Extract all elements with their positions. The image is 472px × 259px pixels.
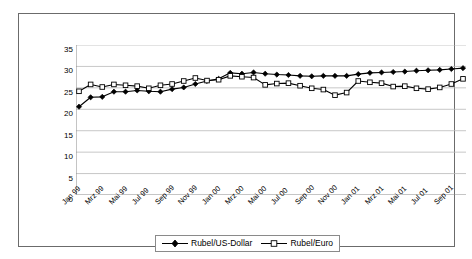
legend-item-rubel-euro: Rubel/Euro bbox=[261, 238, 333, 248]
chart-frame: 05101520253035 Jan 99Mrz 99Mai 99Jul 99S… bbox=[18, 13, 455, 247]
open-square-icon bbox=[261, 239, 287, 248]
chart-screenshot: 05101520253035 Jan 99Mrz 99Mai 99Jul 99S… bbox=[0, 0, 472, 259]
legend-label-rubel-euro: Rubel/Euro bbox=[290, 238, 333, 248]
axis-lines bbox=[76, 45, 466, 195]
y-axis-tick-label: 0 bbox=[49, 195, 73, 204]
y-axis-tick-labels: 05101520253035 bbox=[49, 38, 73, 204]
series-rubel-euro bbox=[77, 74, 466, 98]
legend-item-rubel-us-dollar: Rubel/US-Dollar bbox=[162, 238, 252, 248]
chart-legend: Rubel/US-Dollar Rubel/Euro bbox=[155, 235, 340, 252]
y-axis-tick-label: 5 bbox=[49, 174, 73, 183]
plot-area bbox=[76, 45, 466, 195]
chart-svg bbox=[76, 45, 466, 195]
gridlines bbox=[76, 45, 466, 174]
y-axis-tick-label: 35 bbox=[49, 45, 73, 54]
y-axis-tick-label: 10 bbox=[49, 152, 73, 161]
legend-label-rubel-us-dollar: Rubel/US-Dollar bbox=[191, 238, 252, 248]
y-axis-tick-label: 15 bbox=[49, 131, 73, 140]
y-axis-tick-label: 30 bbox=[49, 66, 73, 75]
y-axis-tick-label: 20 bbox=[49, 109, 73, 118]
filled-diamond-icon bbox=[162, 239, 188, 248]
y-axis-tick-label: 25 bbox=[49, 88, 73, 97]
